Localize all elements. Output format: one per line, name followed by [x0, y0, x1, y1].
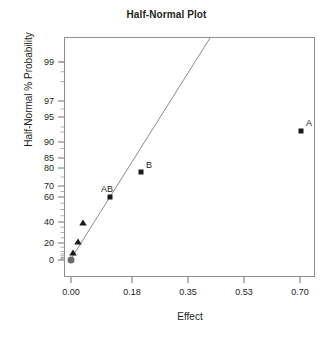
- point-label-a: A: [306, 119, 312, 128]
- point-marker-triangle: [74, 238, 81, 244]
- x-tick-label: 0.70: [280, 288, 320, 297]
- y-tick-label: 40: [30, 218, 54, 227]
- figure-caption: [18, 326, 318, 336]
- point-marker-square: [299, 129, 304, 134]
- point-marker-circle: [68, 257, 75, 264]
- y-tick-label: 97: [30, 97, 54, 106]
- point-label-b: B: [146, 161, 152, 170]
- y-tick-label: 85: [30, 154, 54, 163]
- x-tick-label: 0.53: [224, 288, 264, 297]
- fit-line: [69, 38, 210, 262]
- reference-line: [69, 38, 210, 262]
- y-tick-label: 80: [30, 164, 54, 173]
- point-marker-square: [139, 170, 144, 175]
- x-axis-label: Effect: [64, 311, 316, 322]
- x-tick-label: 0.18: [112, 288, 152, 297]
- figure-root: Half-Normal Plot Half-Normal % Probabili…: [0, 0, 333, 337]
- y-tick-label: 90: [30, 138, 54, 147]
- x-tick-label: 0.35: [168, 288, 208, 297]
- axis-ticks: [58, 62, 300, 283]
- point-marker-square: [108, 195, 113, 200]
- y-tick-label: 0: [30, 256, 54, 265]
- point-marker-triangle: [69, 249, 76, 255]
- y-tick-label: 60: [30, 193, 54, 202]
- data-points: [68, 129, 304, 264]
- y-tick-label: 20: [30, 239, 54, 248]
- y-tick-label: 99: [30, 58, 54, 67]
- point-marker-triangle: [79, 219, 86, 225]
- x-tick-label: 0.00: [51, 288, 91, 297]
- y-tick-label: 70: [30, 182, 54, 191]
- point-label-ab: AB: [101, 185, 113, 194]
- y-tick-label: 95: [30, 113, 54, 122]
